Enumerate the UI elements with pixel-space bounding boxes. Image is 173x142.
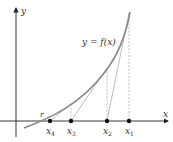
root-label: r xyxy=(40,110,45,119)
label-x4: x4 xyxy=(46,126,55,137)
curve-label: y = f(x) xyxy=(81,37,116,47)
newton-method-diagram: y x y = f(x) r x4 x3 x2 x1 xyxy=(0,0,173,142)
y-axis-label: y xyxy=(20,6,27,16)
label-x3: x3 xyxy=(67,126,76,137)
point-x3 xyxy=(69,119,73,123)
label-x1: x1 xyxy=(125,126,134,137)
point-x1 xyxy=(127,119,131,123)
label-x2: x2 xyxy=(103,126,112,137)
point-x2 xyxy=(105,119,109,123)
point-x4 xyxy=(48,119,52,123)
x-axis-label: x xyxy=(163,109,168,119)
